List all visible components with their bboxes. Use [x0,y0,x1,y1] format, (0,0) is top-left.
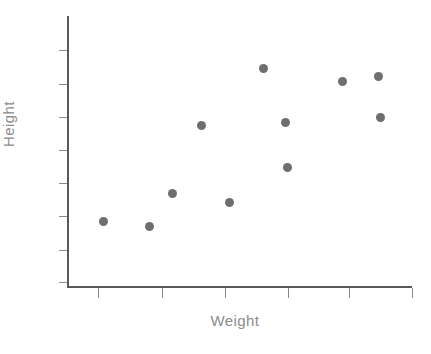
data-point [225,198,234,207]
data-point [283,163,292,172]
data-point [376,113,385,122]
y-axis-title: Height [0,79,17,169]
data-point [168,189,177,198]
data-point [374,72,383,81]
data-point [338,77,347,86]
data-point [145,222,154,231]
x-axis-title: Weight [180,312,290,329]
data-point [281,118,290,127]
data-point [99,217,108,226]
scatter-points-layer [0,0,431,354]
data-point [197,121,206,130]
data-point [259,64,268,73]
scatter-plot-figure: Height Weight [0,0,431,354]
